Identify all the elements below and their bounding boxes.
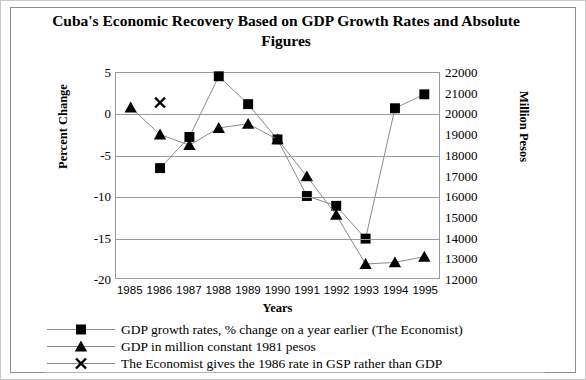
legend-label-2: The Economist gives the 1986 rate in GSP… bbox=[121, 355, 442, 372]
chart-legend: GDP growth rates, % change on a year ear… bbox=[45, 321, 545, 371]
series-line-1 bbox=[131, 107, 425, 264]
data-point-triangle-1995 bbox=[418, 251, 430, 262]
y-tick-right-14000: 14000 bbox=[445, 232, 478, 245]
y-axis-ticks-right: 2200021000200001900018000170001600015000… bbox=[445, 72, 493, 279]
data-point-triangle-1985 bbox=[125, 101, 137, 112]
data-point-triangle-1989 bbox=[242, 118, 254, 129]
legend-divider bbox=[45, 372, 545, 373]
y-tick-right-20000: 20000 bbox=[445, 107, 478, 120]
series-overlay bbox=[116, 73, 439, 278]
legend-item-1: GDP in million constant 1981 pesos bbox=[45, 338, 545, 355]
y-tick-right-15000: 15000 bbox=[445, 211, 478, 224]
gridline--5 bbox=[116, 156, 439, 157]
y-tick-left--10: -10 bbox=[94, 190, 111, 203]
data-point-square-1991 bbox=[302, 191, 312, 201]
y-tick-left--5: -5 bbox=[100, 149, 111, 162]
data-point-triangle-1991 bbox=[301, 170, 313, 181]
y-tick-right-12000: 12000 bbox=[445, 273, 478, 286]
legend-label-0: GDP growth rates, % change on a year ear… bbox=[121, 321, 463, 338]
cross-marker bbox=[45, 355, 117, 372]
plot-area bbox=[115, 72, 440, 279]
y-tick-left--20: -20 bbox=[94, 273, 111, 286]
y-axis-ticks-left: 50-5-10-15-20 bbox=[75, 72, 111, 279]
gridline--15 bbox=[116, 239, 439, 240]
y-tick-right-22000: 22000 bbox=[445, 66, 478, 79]
chart-title: Cuba's Economic Recovery Based on GDP Gr… bbox=[41, 11, 531, 51]
data-point-square-1988 bbox=[214, 71, 224, 81]
legend-item-2: The Economist gives the 1986 rate in GSP… bbox=[45, 355, 545, 372]
y-tick-right-17000: 17000 bbox=[445, 170, 478, 183]
data-point-square-1995 bbox=[419, 89, 429, 99]
data-point-square-1994 bbox=[390, 103, 400, 113]
y-tick-right-18000: 18000 bbox=[445, 149, 478, 162]
y-tick-right-16000: 16000 bbox=[445, 190, 478, 203]
y-tick-right-21000: 21000 bbox=[445, 87, 478, 100]
x-tick-1995: 1995 bbox=[405, 284, 445, 297]
gridline-0 bbox=[116, 114, 439, 115]
x-axis-label: Years bbox=[115, 301, 440, 316]
data-point-cross-1986 bbox=[155, 98, 165, 108]
triangle-marker bbox=[45, 338, 117, 355]
y-tick-left--15: -15 bbox=[94, 232, 111, 245]
gridline--10 bbox=[116, 197, 439, 198]
legend-item-0: GDP growth rates, % change on a year ear… bbox=[45, 321, 545, 338]
data-point-square-1989 bbox=[243, 99, 253, 109]
y-tick-left-0: 0 bbox=[105, 107, 112, 120]
x-axis-ticks: 1985198619871988198919901991199219931994… bbox=[115, 284, 440, 300]
chart-figure: Cuba's Economic Recovery Based on GDP Gr… bbox=[0, 0, 586, 380]
y-tick-left-5: 5 bbox=[105, 66, 112, 79]
y-tick-right-19000: 19000 bbox=[445, 128, 478, 141]
y-axis-label-right: Million Pesos bbox=[516, 57, 531, 197]
square-marker bbox=[45, 321, 117, 338]
y-tick-right-13000: 13000 bbox=[445, 252, 478, 265]
y-axis-label-left: Percent Change bbox=[56, 57, 71, 197]
data-point-square-1986 bbox=[155, 163, 165, 173]
legend-label-1: GDP in million constant 1981 pesos bbox=[121, 338, 316, 355]
